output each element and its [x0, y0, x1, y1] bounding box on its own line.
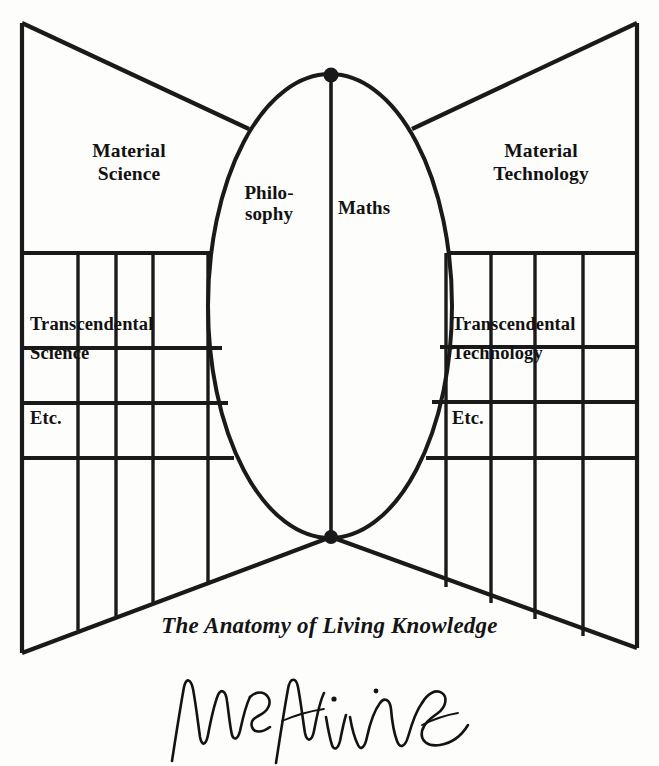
- signature-mark: [150, 665, 510, 765]
- label-transcendental-science: Transcendental Science: [30, 310, 260, 367]
- figure-caption: The Anatomy of Living Knowledge: [0, 613, 659, 639]
- upper-left-diagonal-edge: [22, 23, 249, 129]
- diagram-canvas: Material Science Material Technology Phi…: [0, 0, 659, 766]
- label-transcendental-technology: Transcendental Technology: [452, 310, 659, 367]
- top-vertex-dot: [324, 68, 339, 83]
- upper-right-wing: [412, 23, 637, 253]
- label-etc-right: Etc.: [452, 408, 484, 429]
- anatomy-of-living-knowledge-figure: [0, 0, 659, 766]
- label-material-technology: Material Technology: [452, 140, 630, 185]
- label-maths: Maths: [338, 197, 426, 219]
- label-material-science: Material Science: [45, 140, 213, 185]
- label-etc-left: Etc.: [30, 408, 62, 429]
- upper-right-diagonal-edge: [412, 23, 637, 129]
- label-philosophy: Philo- sophy: [214, 182, 324, 225]
- bottom-vertex-dot: [324, 530, 338, 544]
